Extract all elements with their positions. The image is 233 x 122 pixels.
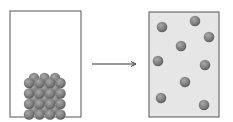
gas-particle xyxy=(190,16,201,27)
gas-particle xyxy=(156,93,167,104)
diagram-canvas xyxy=(0,0,233,122)
solid-particle xyxy=(34,99,44,109)
solid-particle xyxy=(24,78,34,88)
solid-particle xyxy=(45,78,55,88)
solid-particle xyxy=(24,88,34,98)
solid-particle xyxy=(45,99,55,109)
gas-particle xyxy=(176,41,187,52)
solid-particle xyxy=(24,99,34,109)
solid-particle xyxy=(55,88,65,98)
solid-particle xyxy=(24,109,34,119)
gas-particle xyxy=(199,100,210,111)
gas-particle xyxy=(204,32,215,43)
solid-particle xyxy=(34,88,44,98)
solid-particle-cluster xyxy=(24,73,66,120)
gas-particle xyxy=(153,56,164,67)
solid-particle xyxy=(55,99,65,109)
solid-particle xyxy=(55,78,65,88)
solid-particle xyxy=(34,109,44,119)
solid-particle xyxy=(34,78,44,88)
solid-particle xyxy=(55,109,65,119)
gas-particle xyxy=(200,60,211,71)
gas-particle xyxy=(180,77,191,88)
arrow xyxy=(92,62,136,67)
solid-particle xyxy=(45,88,55,98)
gas-particle xyxy=(157,22,168,33)
solid-particle xyxy=(45,109,55,119)
